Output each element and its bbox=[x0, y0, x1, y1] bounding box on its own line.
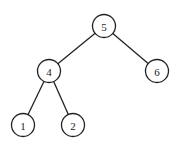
tree-diagram: 5 4 6 1 2 bbox=[0, 0, 178, 150]
tree-node-1: 1 bbox=[12, 114, 35, 137]
node-label: 4 bbox=[46, 66, 52, 78]
node-label: 5 bbox=[101, 21, 107, 33]
node-label: 2 bbox=[70, 120, 76, 132]
tree-node-2: 2 bbox=[62, 114, 85, 137]
tree-node-4: 4 bbox=[38, 60, 61, 83]
node-label: 6 bbox=[154, 66, 160, 78]
nodes: 5 4 6 1 2 bbox=[12, 15, 169, 137]
node-label: 1 bbox=[20, 120, 26, 132]
tree-node-6: 6 bbox=[146, 60, 169, 83]
tree-node-5: 5 bbox=[93, 15, 116, 38]
